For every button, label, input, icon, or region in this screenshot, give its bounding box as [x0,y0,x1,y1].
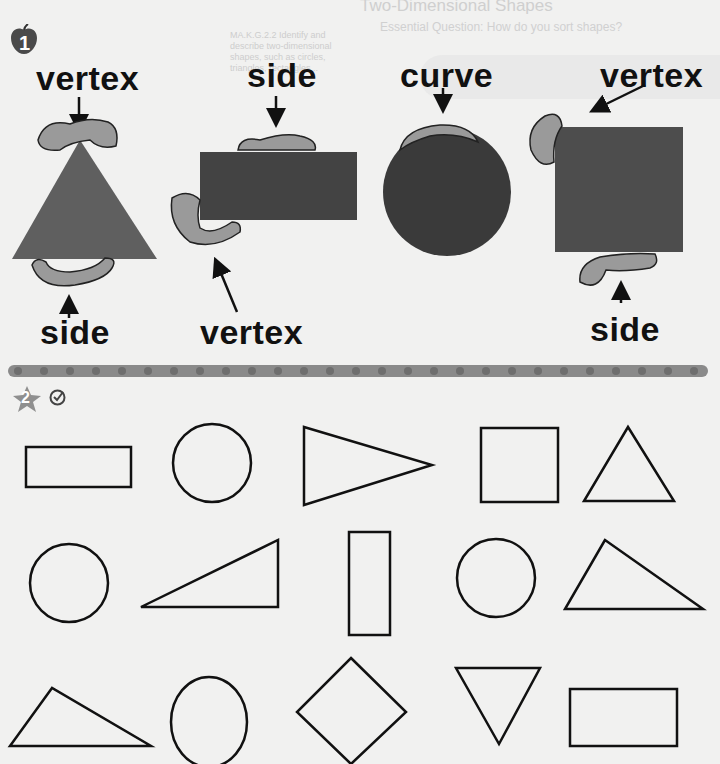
outline-triangle [304,427,432,505]
checkmark-circle-icon [49,389,66,406]
outline-rectangle [570,689,677,746]
outline-triangle [584,427,674,501]
outline-triangle [565,540,703,609]
outline-circle [457,539,535,617]
outline-rectangle [349,532,390,635]
filled-rectangle [200,152,357,220]
outline-circle [30,544,108,622]
outline-triangle [141,540,278,607]
arrow-icon [218,266,237,312]
outline-triangle [456,668,540,744]
outline-circle [173,424,251,502]
filled-triangle [12,140,157,259]
arrow-icon [598,85,645,108]
outline-square [481,428,558,502]
section-divider [8,363,708,379]
outline-rectangle [26,447,131,487]
outline-circle [171,677,247,764]
outline-rhombus [297,658,406,764]
section-2-number: 2 [21,389,30,407]
outline-triangle [10,688,151,746]
filled-square [555,127,683,252]
section-1-illustration [0,0,712,360]
